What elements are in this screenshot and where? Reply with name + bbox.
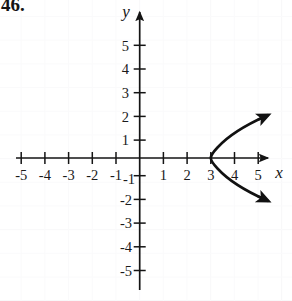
y-tick-label: -5 xyxy=(120,263,132,279)
x-tick-label: -4 xyxy=(39,167,52,183)
x-tick-label: 5 xyxy=(255,167,262,183)
parabola-arrow-upper xyxy=(258,115,269,120)
y-tick-label: -1 xyxy=(123,171,135,187)
x-tick-label: 2 xyxy=(183,167,190,183)
x-axis-label: x xyxy=(274,163,283,182)
y-tick-label: -4 xyxy=(120,239,133,255)
x-tick-label: -1 xyxy=(110,167,122,183)
x-axis xyxy=(16,152,268,164)
x-tick-label: -2 xyxy=(86,167,98,183)
x-tick-label: 3 xyxy=(207,167,214,183)
y-tick-label: -2 xyxy=(120,192,132,208)
x-tick-label: -5 xyxy=(15,167,27,183)
y-axis-label: y xyxy=(120,2,130,21)
y-tick-label: 2 xyxy=(122,109,129,125)
y-tick-label: 4 xyxy=(122,61,130,77)
x-tick-label: 1 xyxy=(160,167,167,183)
coordinate-plane: -5 -4 -3 -2 -1 1 2 3 4 5 5 4 3 2 1 -1 -2… xyxy=(0,0,292,301)
parabola-arrow-lower xyxy=(258,196,269,201)
graph-figure: 46. xyxy=(0,0,292,301)
y-tick-label: 3 xyxy=(122,85,129,101)
y-tick-label: 1 xyxy=(122,132,129,148)
x-tick-label: -3 xyxy=(63,167,75,183)
y-tick-label: 5 xyxy=(122,38,129,54)
y-axis xyxy=(134,12,146,290)
y-tick-label: -3 xyxy=(120,215,132,231)
